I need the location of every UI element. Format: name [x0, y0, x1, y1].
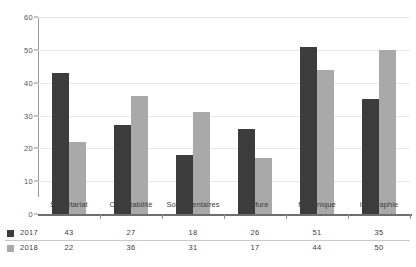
legend-label-2018: 2018 — [20, 243, 38, 252]
legend-label-2017: 2017 — [20, 228, 38, 237]
y-axis-tick-label: 40 — [24, 78, 33, 87]
table-cell-value: 35 — [375, 228, 384, 237]
bar[interactable] — [131, 96, 148, 214]
gridline — [38, 83, 410, 84]
table-cell-value: 44 — [313, 243, 322, 252]
table-cell-value: 31 — [189, 243, 198, 252]
table-row: 2018 223631174450 — [0, 241, 416, 255]
y-axis-tick-label: 60 — [24, 13, 33, 22]
table-cell-value: 50 — [375, 243, 384, 252]
y-axis-tick-label: 50 — [24, 45, 33, 54]
data-table-legend: 2017 432718265135 2018 223631174450 — [0, 226, 416, 260]
bar[interactable] — [52, 73, 69, 214]
bar[interactable] — [317, 70, 334, 214]
x-axis-category-label: Comptabilité — [110, 200, 153, 209]
x-axis-category-label: Soins dentaires — [166, 200, 219, 209]
x-axis-category-labels: SecrétariatComptabilitéSoins dentairesCo… — [38, 200, 412, 216]
bar[interactable] — [379, 50, 396, 214]
bar-group — [114, 17, 148, 197]
gridline — [38, 17, 410, 18]
table-row: 2017 432718265135 — [0, 226, 416, 240]
y-axis-tick-mark — [34, 17, 38, 18]
bar[interactable] — [362, 99, 379, 214]
bar-group — [362, 17, 396, 197]
table-cell-value: 51 — [313, 228, 322, 237]
table-cell-value: 27 — [127, 228, 136, 237]
y-axis-tick-mark — [34, 181, 38, 182]
x-axis-category-label: Mécanique — [298, 200, 336, 209]
table-cell-value: 22 — [65, 243, 74, 252]
y-axis-line — [38, 17, 39, 197]
bar-group — [238, 17, 272, 197]
y-axis-tick-mark — [34, 82, 38, 83]
y-axis-tick-mark — [34, 115, 38, 116]
chart-figure: 0102030405060 SecrétariatComptabilitéSoi… — [0, 0, 416, 267]
legend-swatch-2018-icon — [7, 245, 14, 252]
y-axis-tick-label: 0 — [29, 210, 33, 219]
gridline — [38, 116, 410, 117]
y-axis-tick-label: 20 — [24, 144, 33, 153]
table-cell-value: 17 — [251, 243, 260, 252]
gridline — [38, 181, 410, 182]
x-axis-category-label: Coiffure — [242, 200, 269, 209]
bar[interactable] — [193, 112, 210, 214]
plot-area: 0102030405060 — [38, 17, 410, 197]
bar-group — [300, 17, 334, 197]
gridline — [38, 148, 410, 149]
x-axis-category-label: Secrétariat — [50, 200, 87, 209]
gridline — [38, 50, 410, 51]
y-axis-tick-label: 10 — [24, 177, 33, 186]
y-axis-tick-mark — [34, 49, 38, 50]
y-axis-tick-mark — [34, 148, 38, 149]
bar-group — [52, 17, 86, 197]
x-axis-category-label: Infographie — [360, 200, 399, 209]
table-cell-value: 26 — [251, 228, 260, 237]
table-cell-value: 43 — [65, 228, 74, 237]
legend-swatch-2017-icon — [7, 230, 14, 237]
bar[interactable] — [300, 47, 317, 214]
table-cell-value: 18 — [189, 228, 198, 237]
bar-group — [176, 17, 210, 197]
y-axis-tick-label: 30 — [24, 111, 33, 120]
table-cell-value: 36 — [127, 243, 136, 252]
